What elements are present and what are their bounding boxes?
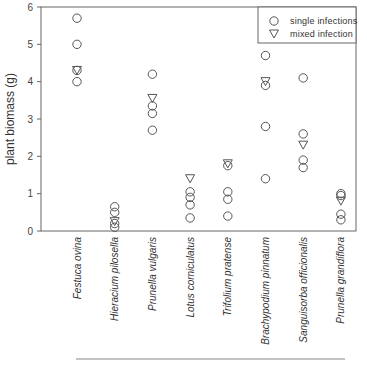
single-infection-point — [73, 77, 81, 85]
single-infection-point — [73, 40, 81, 48]
y-tick-label: 0 — [27, 226, 33, 237]
single-infection-point — [73, 14, 81, 22]
y-tick-label: 1 — [27, 188, 33, 199]
y-axis: 0123456 — [27, 2, 41, 237]
category-label: Lotus corniculatus — [185, 237, 196, 318]
single-infection-point — [299, 74, 307, 82]
single-infection-point — [337, 216, 345, 224]
legend: single infections mixed infection — [258, 7, 358, 43]
single-infection-point — [73, 66, 81, 74]
mixed-infection-point — [299, 141, 308, 149]
single-infection-point — [148, 70, 156, 78]
single-infection-point — [111, 208, 119, 216]
single-infection-point — [261, 122, 269, 130]
single-infection-point — [261, 175, 269, 183]
category-label: Brachypodium pinnatum — [260, 237, 271, 345]
category-label: Hieracium pilosella — [109, 237, 120, 321]
x-axis-category-labels: Festuca ovinaHieracium pilosellaPrunella… — [72, 237, 347, 345]
category-label: Trifolium pratense — [222, 237, 233, 317]
single-infection-point — [261, 51, 269, 59]
category-label: Prunella vulgaris — [147, 237, 158, 311]
single-infection-point — [299, 130, 307, 138]
legend-label-mixed: mixed infection — [290, 29, 353, 39]
single-infection-point — [337, 189, 345, 197]
y-tick-label: 4 — [27, 76, 33, 87]
data-points — [73, 14, 346, 231]
legend-label-single: single infections — [290, 16, 358, 26]
scatter-chart: 0123456 plant biomass (g) Festuca ovinaH… — [0, 0, 367, 369]
single-infection-point — [148, 126, 156, 134]
y-tick-label: 3 — [27, 114, 33, 125]
y-tick-label: 2 — [27, 151, 33, 162]
mixed-infection-point — [186, 175, 195, 183]
single-infection-point — [186, 214, 194, 222]
category-label: Prunella grandiflora — [335, 237, 346, 324]
y-tick-label: 5 — [27, 39, 33, 50]
category-label: Sanguisorba officionalis — [298, 237, 309, 343]
category-label: Festuca ovina — [72, 237, 83, 300]
single-infection-point — [337, 191, 345, 199]
single-infection-point — [224, 212, 232, 220]
y-tick-label: 6 — [27, 2, 33, 13]
y-axis-title: plant biomass (g) — [3, 73, 17, 165]
